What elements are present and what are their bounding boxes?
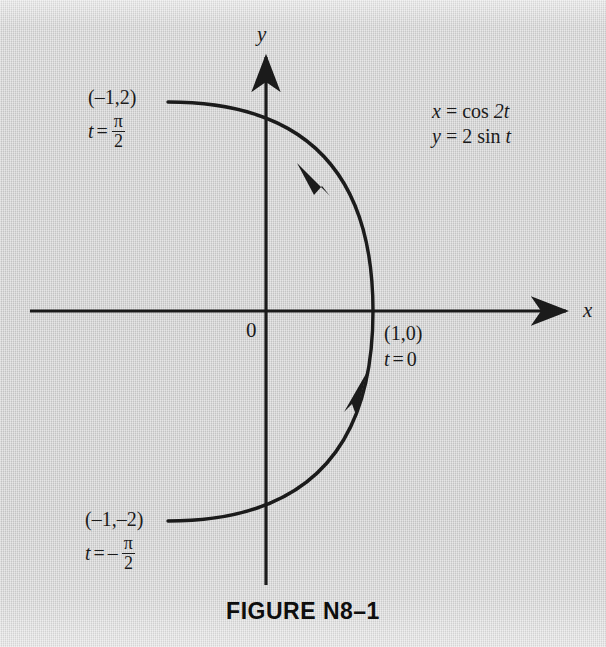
t-sign-lower: – bbox=[108, 542, 118, 565]
point-coord-right: (1,0) bbox=[384, 322, 422, 345]
t-symbol-upper: t bbox=[88, 120, 94, 143]
point-parameter-upper: t = π 2 bbox=[88, 112, 136, 150]
y-axis-label: y bbox=[257, 22, 266, 46]
t-symbol-lower: t bbox=[85, 542, 91, 565]
point-parameter-lower: t = – π 2 bbox=[85, 534, 143, 572]
origin-label: 0 bbox=[246, 318, 257, 342]
equation-x-function: cos bbox=[462, 100, 489, 122]
fraction-pi-over-two-lower: π 2 bbox=[122, 534, 135, 572]
equation-y-function: sin bbox=[477, 125, 500, 147]
point-label-upper: (–1,2) t = π 2 bbox=[88, 86, 136, 150]
point-parameter-right: t = 0 bbox=[384, 348, 422, 371]
equation-y-argument: t bbox=[506, 125, 512, 147]
equation-y-equals: = bbox=[446, 125, 457, 147]
equation-x-argument: 2t bbox=[494, 100, 510, 122]
fraction-numerator-upper: π bbox=[112, 112, 125, 130]
equation-x-lhs: x bbox=[432, 100, 441, 122]
point-label-right: (1,0) t = 0 bbox=[384, 322, 422, 371]
equation-y-coefficient: 2 bbox=[462, 125, 472, 147]
equation-x: x = cos 2t bbox=[432, 100, 511, 123]
t-equals-lower: = bbox=[94, 542, 105, 565]
fraction-denominator-upper: 2 bbox=[112, 131, 125, 150]
point-coord-lower: (–1,–2) bbox=[85, 508, 143, 531]
point-label-lower: (–1,–2) t = – π 2 bbox=[85, 508, 143, 572]
equation-x-equals: = bbox=[446, 100, 457, 122]
fraction-denominator-lower: 2 bbox=[122, 553, 135, 572]
parametric-equations: x = cos 2t y = 2 sin t bbox=[432, 100, 511, 150]
t-equals-right: = bbox=[393, 348, 404, 371]
t-symbol-right: t bbox=[384, 348, 390, 371]
fraction-pi-over-two-upper: π 2 bbox=[112, 112, 125, 150]
x-axis-label: x bbox=[583, 298, 592, 322]
equation-y: y = 2 sin t bbox=[432, 125, 511, 148]
equation-y-lhs: y bbox=[432, 125, 441, 147]
t-value-right: 0 bbox=[407, 348, 417, 371]
point-coord-upper: (–1,2) bbox=[88, 86, 136, 109]
direction-arrow-upper bbox=[297, 163, 330, 196]
t-equals-upper: = bbox=[97, 120, 108, 143]
fraction-numerator-lower: π bbox=[122, 534, 135, 552]
figure-caption: FIGURE N8–1 bbox=[0, 598, 606, 625]
figure-panel: y x 0 x = cos 2t y = 2 sin t (–1,2) t = … bbox=[0, 0, 606, 647]
